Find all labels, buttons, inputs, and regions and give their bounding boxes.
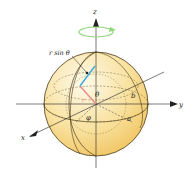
y-axis-arrow xyxy=(170,101,178,107)
y-label: y xyxy=(178,101,184,109)
a-label: a xyxy=(127,115,131,123)
x-label: x xyxy=(21,134,25,142)
b-label: b xyxy=(131,92,136,100)
r-sin-theta-label: r sin θ xyxy=(49,49,70,57)
phi-label: φ xyxy=(86,114,91,122)
spherical-coordinates-diagram: z y x r sin θ θ r φ a b xyxy=(0,0,194,179)
z-axis-arrow xyxy=(93,18,99,27)
z-label: z xyxy=(92,8,97,16)
leader-dot xyxy=(86,72,89,75)
